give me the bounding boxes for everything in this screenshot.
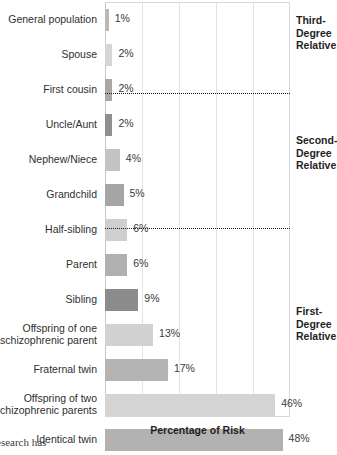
bar (105, 394, 275, 416)
group-separator-2 (105, 228, 290, 229)
x-axis-title: Percentage of Risk (105, 424, 290, 436)
category-label: Uncle/Aunt (0, 118, 97, 130)
group-label-first-degree: First- Degree Relative (296, 305, 334, 343)
bar-row: Parent6% (0, 247, 331, 282)
bar (105, 219, 127, 241)
bar-row: Spouse2% (0, 37, 331, 72)
bar-value-label: 13% (159, 327, 180, 340)
bar-row: Grandchild5% (0, 177, 331, 212)
bar (105, 44, 112, 66)
bar-value-label: 2% (118, 47, 133, 60)
category-label: Grandchild (0, 188, 97, 200)
bar-row: Uncle/Aunt2% (0, 107, 331, 142)
group-label-third-degree: Third- Degree Relative (296, 14, 334, 52)
category-label: Sibling (0, 293, 97, 305)
bar (105, 79, 112, 101)
bar (105, 324, 153, 346)
bar-row: General population1% (0, 2, 331, 37)
bar-row: Half-sibling6% (0, 212, 331, 247)
bar (105, 9, 109, 31)
bar-row: Offspring of two schizophrenic parents46… (0, 387, 331, 422)
category-label: Spouse (0, 48, 97, 60)
bar (105, 359, 168, 381)
bar-value-label: 4% (126, 152, 141, 165)
category-label: General population (0, 13, 97, 25)
bar (105, 149, 120, 171)
category-label: First cousin (0, 83, 97, 95)
category-label: Half-sibling (0, 223, 97, 235)
category-label: Offspring of two schizophrenic parents (0, 392, 97, 416)
bar-value-label: 5% (130, 187, 145, 200)
category-label: Offspring of one schizophrenic parent (0, 322, 97, 346)
bar-row: Offspring of one schizophrenic parent13% (0, 317, 331, 352)
category-label: Nephew/Niece (0, 153, 97, 165)
bar-value-label: 1% (115, 12, 130, 25)
bar (105, 254, 127, 276)
bar-row: Sibling9% (0, 282, 331, 317)
bar-value-label: 9% (144, 292, 159, 305)
bar (105, 289, 138, 311)
category-label: Fraternal twin (0, 363, 97, 375)
bar-row: Fraternal twin17% (0, 352, 331, 387)
category-label: Parent (0, 258, 97, 270)
bar-row: Nephew/Niece4% (0, 142, 331, 177)
bar-row: First cousin2% (0, 72, 331, 107)
bar-value-label: 46% (281, 397, 302, 410)
page-bleed-text: esearch has (0, 436, 46, 448)
bar-value-label: 6% (133, 257, 148, 270)
group-separator-1 (105, 93, 290, 94)
bar-value-label: 17% (174, 362, 195, 375)
bar-value-label: 2% (118, 117, 133, 130)
bar (105, 114, 112, 136)
group-label-second-degree: Second- Degree Relative (296, 134, 334, 172)
bar-value-label: 48% (289, 432, 310, 445)
bar (105, 184, 124, 206)
